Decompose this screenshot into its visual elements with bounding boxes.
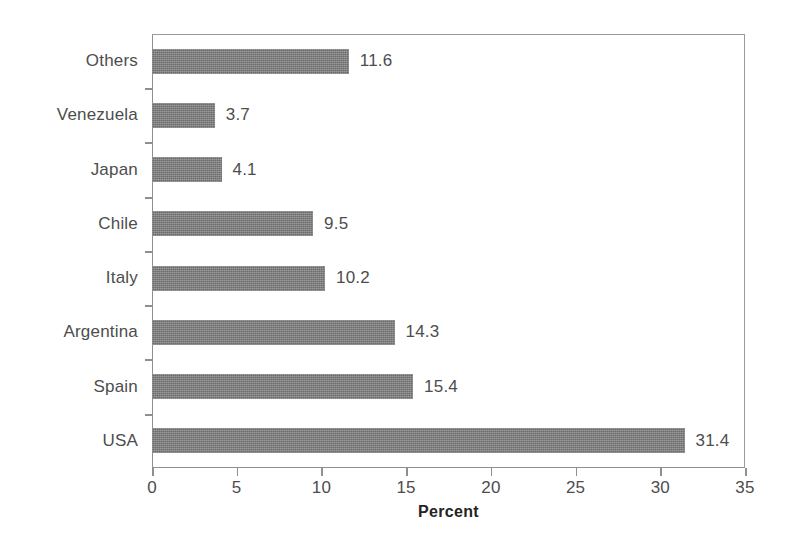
category-label-venezuela: Venezuela	[0, 88, 138, 142]
bar-row-venezuela: 3.7	[152, 88, 745, 142]
x-axis-tick-label: 10	[291, 478, 351, 498]
bar-value-spain: 15.4	[424, 377, 458, 397]
x-axis-tick-label: 5	[207, 478, 267, 498]
bar-value-venezuela: 3.7	[226, 105, 250, 125]
bar-value-japan: 4.1	[233, 160, 257, 180]
bar-row-spain: 15.4	[152, 360, 745, 414]
bar-row-chile: 9.5	[152, 197, 745, 251]
bar-value-italy: 10.2	[336, 268, 370, 288]
category-axis-labels: Others Venezuela Japan Chile Italy Argen…	[0, 34, 138, 468]
category-label-japan: Japan	[0, 143, 138, 197]
x-axis-tick	[491, 468, 493, 476]
bar-spain	[152, 374, 413, 399]
x-axis-tick-label: 25	[546, 478, 606, 498]
bar-usa	[152, 428, 685, 453]
category-label-others: Others	[0, 34, 138, 88]
bar-value-others: 11.6	[360, 51, 393, 71]
bar-row-italy: 10.2	[152, 251, 745, 305]
x-axis-tick	[152, 468, 154, 476]
x-axis-tick-label: 15	[376, 478, 436, 498]
bar-japan	[152, 157, 222, 182]
x-axis-tick	[576, 468, 578, 476]
x-axis-tick-label: 0	[122, 478, 182, 498]
category-label-argentina: Argentina	[0, 305, 138, 359]
category-label-italy: Italy	[0, 251, 138, 305]
category-label-chile: Chile	[0, 197, 138, 251]
bar-value-usa: 31.4	[696, 431, 730, 451]
bar-row-usa: 31.4	[152, 414, 745, 468]
x-axis-tick-label: 20	[461, 478, 521, 498]
x-axis-tick	[237, 468, 239, 476]
bar-row-argentina: 14.3	[152, 305, 745, 359]
bar-others	[152, 49, 349, 74]
bar-argentina	[152, 320, 395, 345]
x-axis-tick	[745, 468, 747, 476]
bar-row-japan: 4.1	[152, 143, 745, 197]
x-axis-tick	[406, 468, 408, 476]
x-axis-tick	[321, 468, 323, 476]
x-axis-title: Percent	[152, 503, 745, 521]
category-label-usa: USA	[0, 414, 138, 468]
bar-venezuela	[152, 103, 215, 128]
bar-italy	[152, 266, 325, 291]
x-axis-tick-label: 35	[715, 478, 775, 498]
bar-chile	[152, 211, 313, 236]
x-axis-tick	[660, 468, 662, 476]
bar-row-others: 11.6	[152, 34, 745, 88]
bar-chart: Others Venezuela Japan Chile Italy Argen…	[0, 0, 790, 543]
category-label-spain: Spain	[0, 360, 138, 414]
bar-value-argentina: 14.3	[406, 322, 440, 342]
x-axis-tick-label: 30	[630, 478, 690, 498]
bar-value-chile: 9.5	[324, 214, 348, 234]
bar-series: 11.6 3.7 4.1 9.5 10.2 14.3 15.4 31.4	[152, 34, 745, 468]
